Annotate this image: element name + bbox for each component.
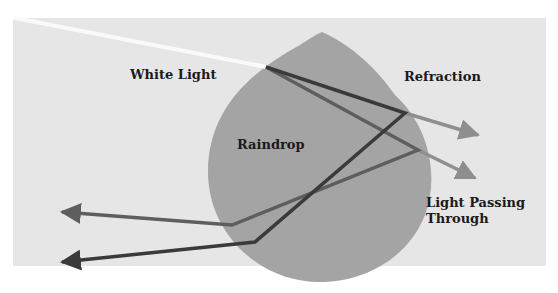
refraction-label: Refraction [404, 69, 481, 85]
white-light-label: White Light [130, 67, 216, 83]
raindrop-label: Raindrop [237, 137, 305, 153]
light-passing-label-line2: Through [426, 211, 489, 227]
raindrop-refraction-diagram: White Light Refraction Raindrop Light Pa… [0, 0, 558, 293]
light-passing-label-line1: Light Passing [426, 195, 525, 211]
